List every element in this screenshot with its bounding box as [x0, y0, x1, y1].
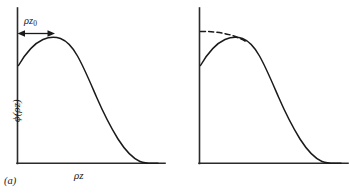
panel-a-rho-z0-arrow	[18, 30, 56, 37]
panel-a: ρz0 ϕ(ρz) ρz (a)	[0, 0, 175, 194]
panel-a-caption-label: (a)	[4, 176, 16, 187]
panel-a-curve-phi-rho-z	[19, 37, 159, 163]
panel-a-x-axis-label: ρz	[74, 170, 84, 181]
panel-a-segment-label: ρz0	[24, 16, 37, 28]
figure-root: ρz0 ϕ(ρz) ρz (a) ϕ(ρz) ρz (b)	[0, 0, 349, 194]
panel-a-segment-label-subscript: 0	[33, 19, 37, 28]
panel-b-plot	[174, 0, 349, 194]
panel-a-y-axis-label: ϕ(ρz)	[11, 99, 22, 122]
panel-a-plot	[0, 0, 175, 194]
panel-b: ϕ(ρz) ρz (b)	[174, 0, 349, 194]
panel-a-arrow-head-right	[48, 30, 56, 37]
panel-a-arrow-head-left	[18, 30, 26, 37]
panel-b-curve-phi-rho-z	[201, 37, 342, 163]
